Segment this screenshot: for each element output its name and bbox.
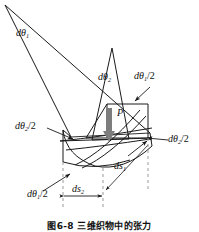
arrow-right-upward bbox=[128, 141, 147, 156]
label-dtheta1-half-bottom: dθ1/2 bbox=[27, 189, 48, 200]
leader-dtheta1-half-top bbox=[135, 87, 150, 101]
label-dtheta2: dθ2 bbox=[98, 72, 111, 83]
dimension-ds1 bbox=[106, 145, 148, 190]
figure-container: dθ1 dθ2 dθ1/2 dθ2/2 dθ2/2 dθ1/2 ds1 ds2 … bbox=[0, 0, 199, 232]
label-dtheta2-half-right: dθ2/2 bbox=[168, 134, 189, 145]
label-dtheta2-half-left: dθ2/2 bbox=[15, 121, 36, 132]
tension-triangle-large bbox=[5, 5, 150, 137]
label-ds2: ds2 bbox=[72, 184, 84, 195]
leader-dtheta2-half-right bbox=[147, 138, 168, 140]
dashed-guides bbox=[63, 138, 148, 207]
label-ds1: ds1 bbox=[114, 161, 126, 172]
label-dtheta1: dθ1 bbox=[16, 28, 29, 39]
label-dtheta1-half-top: dθ1/2 bbox=[134, 71, 155, 82]
label-point-p: P bbox=[117, 108, 123, 118]
figure-caption: 图6-8 三维织物中的张力 bbox=[0, 219, 199, 232]
load-arrow-at-P bbox=[103, 108, 115, 142]
